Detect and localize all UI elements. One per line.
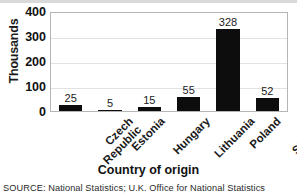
bar: [256, 98, 280, 111]
bar-value-label: 15: [130, 95, 169, 106]
bar-slot: 52: [248, 13, 287, 111]
x-category-label-text: Lithuania: [212, 115, 257, 160]
bar-chart-figure: Thousands 0100200300400 255155532852 Cze…: [0, 0, 297, 196]
y-tick-label: 400: [6, 6, 46, 19]
bar: [98, 110, 122, 111]
bar-series: 255155532852: [51, 13, 287, 111]
x-category-label-line: Slovakia: [290, 115, 297, 157]
bar-slot: 25: [51, 13, 90, 111]
bar-slot: 55: [169, 13, 208, 111]
bar-value-label: 25: [51, 93, 90, 104]
y-tick-label: 200: [6, 56, 46, 69]
bar: [216, 29, 240, 111]
y-tick-label: 100: [6, 81, 46, 94]
y-tick-label: 0: [6, 106, 46, 119]
x-category-label-line: Hungary: [171, 115, 213, 157]
source-note: SOURCE: National Statistics; U.K. Office…: [3, 183, 297, 193]
bar-value-label: 328: [208, 17, 247, 28]
bar-slot: 328: [208, 13, 247, 111]
y-tick-label: 300: [6, 31, 46, 44]
bar-slot: 15: [130, 13, 169, 111]
bar: [138, 107, 162, 111]
bar-slot: 5: [90, 13, 129, 111]
x-category-label-line: Lithuania: [212, 115, 257, 160]
bar-value-label: 55: [169, 85, 208, 96]
x-axis-title: Country of origin: [0, 163, 297, 177]
plot-area: 255155532852: [50, 12, 288, 112]
bar: [59, 105, 83, 111]
x-category-label-text: Slovakia: [290, 115, 297, 157]
bar-value-label: 5: [90, 98, 129, 109]
bar-value-label: 52: [248, 86, 287, 97]
x-category-label-text: Hungary: [171, 115, 213, 157]
bar: [177, 97, 201, 111]
